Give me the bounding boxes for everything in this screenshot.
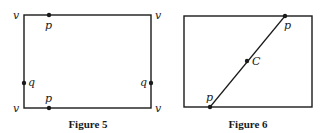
- figure-5: v v v v p p q q Figure 5: [13, 9, 162, 130]
- point-q-left: [22, 81, 26, 85]
- point-q-right-label: q: [140, 76, 147, 89]
- point-q-left-label: q: [28, 76, 35, 89]
- point-p-bottom: [47, 106, 51, 110]
- point-p-top: [47, 13, 51, 17]
- point-p-bottom-left-label: p: [206, 91, 213, 104]
- vertex-label-top-left: v: [13, 9, 20, 22]
- figure-5-caption: Figure 5: [68, 118, 108, 130]
- figure-6-caption: Figure 6: [228, 118, 268, 130]
- point-p-top-right: [283, 14, 287, 18]
- vertex-label-top-right: v: [155, 9, 162, 22]
- figures-canvas: v v v v p p q q Figure 5 p C p Figure 6: [0, 0, 320, 133]
- point-c-label: C: [252, 55, 261, 68]
- vertex-label-bottom-left: v: [13, 102, 20, 115]
- vertex-label-bottom-right: v: [155, 102, 162, 115]
- point-q-right: [149, 81, 153, 85]
- point-p-bottom-left: [208, 105, 212, 109]
- figure-5-rectangle: [24, 15, 151, 108]
- point-p-bottom-label: p: [45, 92, 52, 105]
- point-p-top-right-label: p: [284, 19, 291, 32]
- point-c-center: [245, 59, 249, 63]
- figure-6: p C p Figure 6: [184, 14, 312, 130]
- point-p-top-label: p: [45, 19, 52, 32]
